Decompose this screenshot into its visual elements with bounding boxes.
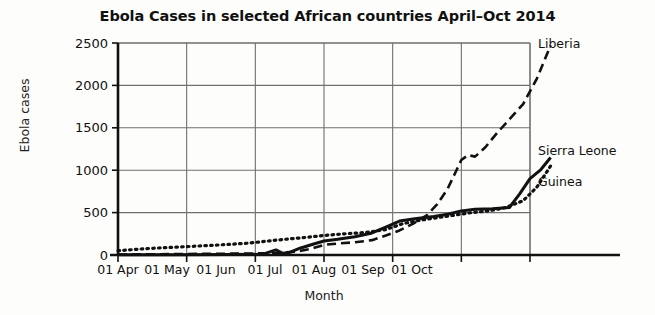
axis-ticks	[112, 43, 530, 262]
y-tick-label-0: 0	[54, 248, 108, 263]
y-tick-label-1500: 1500	[54, 120, 108, 135]
series-line-sierra-leone	[118, 157, 551, 254]
x-tick-label-01-oct: 01 Oct	[377, 262, 447, 277]
gridlines	[118, 43, 530, 255]
series-label-sierra-leone: Sierra Leone	[538, 143, 617, 158]
ebola-cases-line-chart: Ebola Cases in selected African countrie…	[0, 0, 655, 315]
series-line-liberia	[118, 46, 551, 255]
y-tick-label-500: 500	[54, 205, 108, 220]
y-tick-label-1000: 1000	[54, 163, 108, 178]
series-label-guinea: Guinea	[538, 174, 582, 189]
x-axis-title: Month	[118, 288, 530, 303]
chart-title: Ebola Cases in selected African countrie…	[0, 8, 655, 24]
series-label-liberia: Liberia	[538, 36, 580, 51]
y-tick-label-2000: 2000	[54, 78, 108, 93]
series-paths	[118, 46, 551, 255]
y-axis-title: Ebola cases	[17, 56, 32, 176]
y-tick-label-2500: 2500	[54, 36, 108, 51]
